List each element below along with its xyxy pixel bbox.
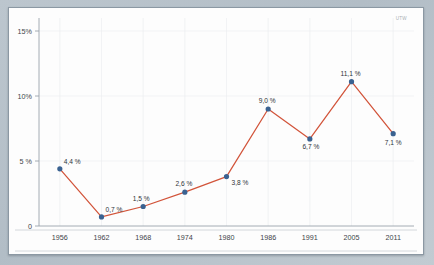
data-point-label: 4,4 % [64,158,81,165]
x-tick-label: 1968 [135,233,151,242]
data-point-label: 7,1 % [385,139,402,146]
data-point-label: 9,0 % [259,97,276,104]
y-tick-group: 05 %10%15% [18,27,39,231]
x-tick-label-group: 195619621968197419801986199120052011 [52,233,401,242]
x-tick-label: 1962 [94,233,110,242]
data-point-label: 3,8 % [232,179,249,186]
data-point[interactable] [391,131,396,136]
data-point[interactable] [182,190,187,195]
data-point-label: 6,7 % [302,143,319,150]
x-tick-label: 1956 [52,233,68,242]
data-point-label: 11,1 % [340,70,360,77]
chart-inner: 05 %10%15% 19561962196819741980198619912… [9,8,423,254]
data-point[interactable] [224,174,229,179]
data-point[interactable] [349,79,354,84]
data-point-label: 0,7 % [106,206,123,213]
data-point[interactable] [141,204,146,209]
chart-card: 05 %10%15% 19561962196819741980198619912… [8,7,424,255]
y-tick-label: 5 % [20,157,33,166]
data-point[interactable] [57,166,62,171]
grid-vertical [60,18,393,226]
data-point[interactable] [266,106,271,111]
data-point-label: 1,5 % [133,195,150,202]
data-point-label: 2,6 % [175,180,192,187]
x-tick-label: 1974 [177,233,193,242]
watermark-label: UTW [396,16,408,21]
data-point[interactable] [307,136,312,141]
y-tick-label: 0 [28,222,32,231]
x-tick-label: 2011 [385,233,400,242]
data-point[interactable] [99,214,104,219]
x-tick-label: 2005 [344,233,360,242]
x-tick-label: 1991 [302,233,318,242]
x-tick-label: 1980 [219,233,235,242]
y-tick-label: 15% [18,27,33,36]
data-label-group: 4,4 %0,7 %1,5 %2,6 %3,8 %9,0 %6,7 %11,1 … [64,70,402,213]
x-tick-label: 1986 [260,233,276,242]
line-chart: 05 %10%15% 19561962196819741980198619912… [9,8,423,254]
y-tick-label: 10% [18,92,33,101]
screenshot-root: 05 %10%15% 19561962196819741980198619912… [0,0,434,265]
